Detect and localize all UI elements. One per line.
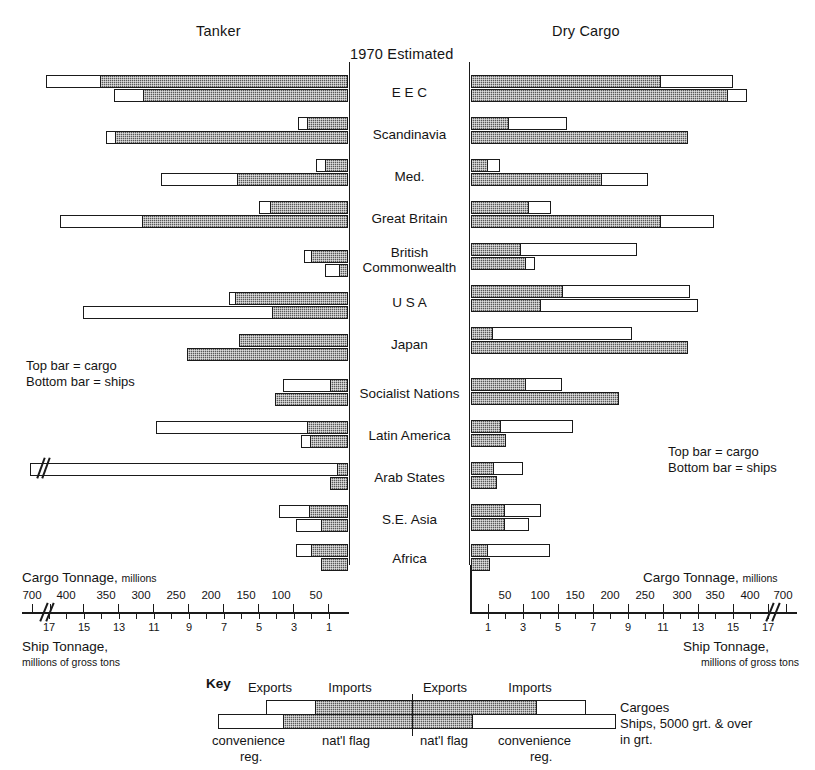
segment-natl-flag xyxy=(471,117,509,130)
axis-tick-ship-right-9: 9 xyxy=(611,621,645,633)
axis-tick-cargo-left-250: 250 xyxy=(159,589,193,601)
bar-tanker-cargo-british-commonwealth xyxy=(304,250,348,263)
chart-canvas: Tanker Dry Cargo 1970 Estimated E E C Sc… xyxy=(0,0,815,770)
bar-tanker-ships-scandinavia xyxy=(106,131,348,144)
axis-title-ship-left: Ship Tonnage, xyxy=(22,639,108,654)
tick-ship-left xyxy=(294,613,295,619)
axis-line-right xyxy=(470,612,797,614)
axis-title-cargo-right: Cargo Tonnage, millions xyxy=(643,570,778,585)
segment-natl-flag xyxy=(471,341,688,354)
tick-ship-left xyxy=(171,613,172,619)
bar-tanker-ships-arab-states xyxy=(330,477,348,490)
segment-natl-flag xyxy=(471,434,506,447)
note-right-top-bar: Top bar = cargo xyxy=(668,444,759,460)
tick-ship-left xyxy=(189,613,190,619)
tick-cargo-left xyxy=(293,604,294,613)
bar-tanker-cargo-med xyxy=(316,159,348,172)
axis-unit-cargo-left: millions xyxy=(122,572,157,584)
axis-tick-ship-right-7: 7 xyxy=(576,621,610,633)
axis-tick-cargo-right-50: 50 xyxy=(488,589,522,601)
segment-convenience xyxy=(30,463,338,476)
segment-natl-flag xyxy=(471,173,602,186)
segment-natl-flag xyxy=(471,89,728,102)
segment-convenience xyxy=(525,257,535,270)
category-label-med: Med. xyxy=(349,169,470,184)
segment-natl-flag xyxy=(471,159,488,172)
segment-natl-flag xyxy=(237,173,348,186)
segment-convenience xyxy=(296,544,312,557)
bar-tanker-ships-se-asia xyxy=(296,519,348,532)
bar-tanker-ships-latin-america xyxy=(301,435,348,448)
bar-drycargo-cargo-scandinavia xyxy=(471,117,567,130)
segment-natl-flag xyxy=(471,544,488,557)
note-right-bottom-bar: Bottom bar = ships xyxy=(668,460,777,476)
axis-tick-cargo-right-150: 150 xyxy=(558,589,592,601)
bar-drycargo-ships-japan xyxy=(471,341,688,354)
segment-natl-flag xyxy=(115,131,348,144)
axis-tick-ship-left-7: 7 xyxy=(207,621,241,633)
segment-natl-flag xyxy=(471,558,490,571)
segment-convenience xyxy=(487,544,550,557)
axis-tick-ship-left-17: 17 xyxy=(32,621,66,633)
tick-ship-right xyxy=(540,613,541,619)
segment-natl-flag xyxy=(272,306,348,319)
tick-ship-right xyxy=(750,613,751,619)
segment-natl-flag xyxy=(471,378,526,391)
tick-ship-right xyxy=(715,613,716,619)
key-label-exports-right: Exports xyxy=(405,680,485,695)
tick-ship-right xyxy=(680,613,681,619)
tick-ship-left xyxy=(276,613,277,619)
bar-tanker-cargo-africa xyxy=(296,544,348,557)
axis-title-cargo-left: Cargo Tonnage, millions xyxy=(22,570,157,585)
tick-cargo-left xyxy=(32,604,33,613)
tick-ship-left xyxy=(224,613,225,619)
axis-tick-cargo-left-700: 700 xyxy=(15,589,49,601)
segment-convenience xyxy=(492,327,632,340)
tick-ship-right xyxy=(645,613,646,619)
tick-ship-left xyxy=(311,613,312,619)
segment-natl-flag xyxy=(321,519,348,532)
tick-ship-right xyxy=(488,613,489,619)
bar-drycargo-cargo-socialist-nations xyxy=(471,378,562,391)
label-line-2: Commonwealth xyxy=(363,260,457,275)
tick-cargo-right xyxy=(698,604,699,613)
segment-natl-flag xyxy=(310,435,348,448)
bar-tanker-ships-med xyxy=(161,173,348,186)
bar-drycargo-ships-usa xyxy=(471,299,698,312)
bar-tanker-ships-british-commonwealth xyxy=(325,264,348,277)
axis-tick-ship-left-11: 11 xyxy=(137,621,171,633)
axis-tick-ship-right-11: 11 xyxy=(646,621,680,633)
tick-ship-left xyxy=(119,613,120,619)
segment-natl-flag xyxy=(307,117,348,130)
bar-drycargo-cargo-africa xyxy=(471,544,550,557)
segment-natl-flag xyxy=(339,264,348,277)
tick-ship-right xyxy=(610,613,611,619)
tick-ship-right xyxy=(733,613,734,619)
tick-cargo-left xyxy=(258,604,259,613)
bar-tanker-cargo-se-asia xyxy=(279,505,348,518)
segment-convenience xyxy=(279,505,310,518)
axis-tick-ship-right-15: 15 xyxy=(716,621,750,633)
tick-ship-left xyxy=(241,613,242,619)
tick-ship-right xyxy=(523,613,524,619)
bar-drycargo-ships-arab-states xyxy=(471,476,497,489)
tick-cargo-left xyxy=(83,604,84,613)
bar-drycargo-cargo-latin-america xyxy=(471,420,573,433)
segment-natl-flag xyxy=(321,558,348,571)
axis-tick-cargo-right-300: 300 xyxy=(665,589,699,601)
tick-cargo-left xyxy=(328,604,329,613)
segment-natl-flag xyxy=(311,544,348,557)
category-label-latin-america: Latin America xyxy=(349,428,470,443)
category-label-eec: E E C xyxy=(349,85,470,100)
key-segment-convenience-right xyxy=(472,714,616,729)
key-segment-convenience-left xyxy=(218,714,284,729)
category-label-africa: Africa xyxy=(349,551,470,566)
segment-convenience xyxy=(528,201,551,214)
tick-cargo-left xyxy=(223,604,224,613)
bar-drycargo-ships-british-commonwealth xyxy=(471,257,535,270)
segment-convenience xyxy=(283,379,331,392)
segment-natl-flag xyxy=(143,89,348,102)
bar-drycargo-ships-great-britain xyxy=(471,215,714,228)
segment-natl-flag xyxy=(471,518,505,531)
bar-tanker-ships-usa xyxy=(83,306,348,319)
